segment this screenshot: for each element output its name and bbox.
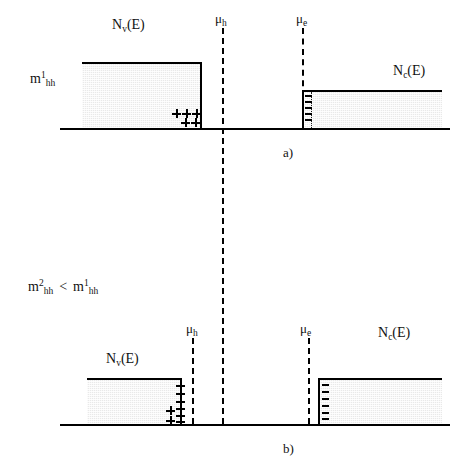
mu-hole-center-line	[222, 28, 224, 424]
electron-minus-mark	[305, 101, 312, 103]
panel-a-electron-dotted-line	[311, 92, 312, 128]
conduction-band-edge-top	[318, 378, 442, 380]
panel-a-mu-hole-label: μh	[215, 12, 227, 25]
panel-b-mu-electron-line	[308, 338, 310, 424]
electron-minus-mark	[305, 119, 312, 121]
panel-b-conduction-dos-label: Nc(E)	[378, 326, 410, 340]
hole-plus-mark	[191, 118, 200, 127]
electron-minus-mark	[322, 391, 329, 393]
valence-band-edge-top	[82, 62, 202, 64]
panel-b-mass-comparison-label: m2hh<m1hh	[28, 280, 98, 294]
panel-b-caption: b)	[283, 442, 294, 455]
panel-b-energy-baseline	[60, 424, 450, 426]
electron-minus-mark	[305, 95, 312, 97]
panel-b-mu-hole-line	[192, 338, 194, 424]
electron-minus-mark	[322, 418, 329, 420]
conduction-band-edge-left	[318, 378, 320, 424]
electron-minus-mark	[322, 405, 329, 407]
panel-a-conduction-dos-label: Nc(E)	[393, 64, 425, 78]
panel-a-caption: a)	[283, 146, 293, 159]
panel-a-valence-dos-label: Nv(E)	[112, 18, 145, 32]
panel-b-valence-dos-label: Nv(E)	[106, 352, 139, 366]
valence-band-edge-top	[87, 378, 182, 380]
panel-a-energy-baseline	[60, 128, 450, 130]
electron-minus-mark	[305, 107, 312, 109]
hole-plus-mark	[192, 109, 201, 118]
electron-minus-mark	[305, 113, 312, 115]
conduction-band-edge-top	[302, 90, 442, 92]
electron-minus-mark	[322, 398, 329, 400]
hole-plus-mark	[172, 109, 181, 118]
panel-a-conduction-band-box	[302, 90, 442, 128]
hole-plus-mark	[181, 118, 190, 127]
panel-a-mu-electron-line	[302, 28, 304, 128]
panel-b-mu-electron-label: μe	[300, 322, 311, 335]
panel-b-mu-hole-label: μh	[186, 322, 198, 335]
panel-a-mu-electron-label: μe	[296, 12, 307, 25]
panel-b-conduction-band-box	[318, 378, 442, 424]
hole-plus-mark	[182, 109, 191, 118]
valence-band-edge-right	[200, 62, 202, 128]
panel-a-mass-label: m1hh	[30, 72, 55, 86]
hole-plus-mark	[166, 406, 175, 415]
electron-minus-mark	[322, 412, 329, 414]
electron-minus-mark	[322, 384, 329, 386]
band-diagram-figure: m1hh Nv(E) Nc(E) μh μe	[0, 0, 472, 466]
